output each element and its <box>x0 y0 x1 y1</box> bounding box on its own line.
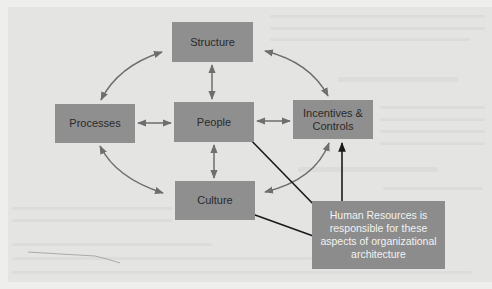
node-culture-label: Culture <box>197 194 232 207</box>
bleed-through-line <box>380 142 485 145</box>
callout-human-resources: Human Resources is responsible for these… <box>312 201 445 269</box>
bleed-through-line <box>12 257 312 260</box>
bleed-through-line <box>298 167 438 172</box>
bleed-through-line <box>383 187 483 190</box>
scanned-page: Structure Processes People Incentives & … <box>0 0 492 289</box>
node-processes: Processes <box>55 104 135 143</box>
bleed-through-line <box>380 130 485 133</box>
bleed-through-line <box>12 243 212 246</box>
node-incentives-label: Incentives & Controls <box>299 107 367 133</box>
node-culture: Culture <box>175 181 255 220</box>
bleed-through-line <box>12 219 172 222</box>
bleed-through-line <box>270 38 470 41</box>
bleed-through-line <box>12 271 472 274</box>
node-processes-label: Processes <box>69 117 120 130</box>
node-people-label: People <box>197 116 231 129</box>
node-structure: Structure <box>172 22 253 62</box>
bleed-through-line <box>380 106 485 109</box>
node-incentives-controls: Incentives & Controls <box>293 100 373 139</box>
bleed-through-line <box>338 77 458 82</box>
bleed-through-line <box>12 207 172 210</box>
node-structure-label: Structure <box>190 36 235 49</box>
bleed-through-line <box>270 15 485 18</box>
node-people: People <box>174 102 254 142</box>
bleed-through-line <box>270 27 485 30</box>
callout-label: Human Resources is responsible for these… <box>316 209 441 261</box>
bleed-through-line <box>380 118 485 121</box>
